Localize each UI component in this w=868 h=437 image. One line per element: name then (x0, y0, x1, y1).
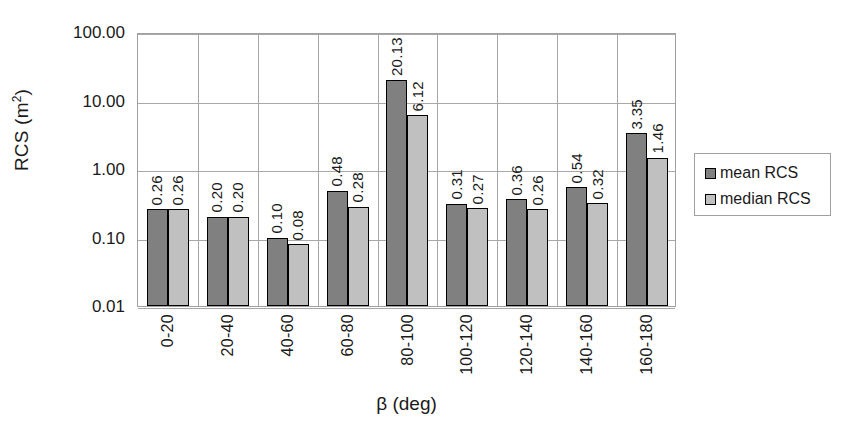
bar-mean[interactable] (626, 133, 647, 306)
bar-median[interactable] (168, 209, 189, 306)
bar-value-label: 1.46 (650, 123, 665, 153)
x-axis-tick-label: 160-180 (638, 314, 656, 375)
x-axis-tick-label: 120-140 (518, 314, 536, 375)
bar-median[interactable] (647, 158, 668, 306)
plot-area: 0.260.260.200.200.100.080.480.2820.136.1… (137, 33, 676, 307)
bar-median[interactable] (587, 203, 608, 306)
bar-group: 0.200.20 (198, 34, 258, 306)
bar-median[interactable] (467, 208, 488, 306)
bar-value-label: 3.35 (629, 99, 644, 129)
bar-group: 0.310.27 (437, 34, 497, 306)
x-axis-tick-label: 100-120 (458, 314, 476, 375)
x-axis-title: β (deg) (137, 393, 676, 415)
bar-group: 0.360.26 (497, 34, 557, 306)
x-axis-tick-label: 80-100 (399, 314, 417, 366)
legend-swatch-icon (705, 194, 716, 205)
bar-value-label: 0.31 (449, 169, 464, 199)
bar-value-label: 0.20 (209, 182, 224, 212)
bar-mean[interactable] (267, 238, 288, 307)
y-axis-tick-labels: 100.0010.001.000.100.01 (0, 33, 131, 307)
y-axis-tick-label: 0.10 (92, 229, 125, 249)
bar-mean[interactable] (147, 209, 168, 306)
y-axis-tick-label: 100.00 (73, 23, 125, 43)
bar-value-label: 20.13 (389, 37, 404, 76)
bar-value-label: 0.26 (170, 175, 185, 205)
bar-group: 3.351.46 (617, 34, 677, 306)
x-axis-tick-label: 40-60 (279, 314, 297, 356)
bar-group: 0.100.08 (258, 34, 318, 306)
y-axis-tick-label: 10.00 (82, 92, 125, 112)
bar-value-label: 0.36 (509, 165, 524, 195)
bar-value-label: 0.28 (350, 172, 365, 202)
bar-group: 0.540.32 (557, 34, 617, 306)
bar-mean[interactable] (506, 199, 527, 306)
bar-value-label: 0.54 (569, 153, 584, 183)
bar-value-label: 0.08 (290, 210, 305, 240)
legend-item-label: mean RCS (720, 165, 798, 181)
legend-item[interactable]: mean RCS (705, 161, 830, 185)
legend-swatch-icon (705, 168, 716, 179)
bar-median[interactable] (527, 209, 548, 306)
rcs-bar-chart: RCS (m2) 100.0010.001.000.100.01 0.260.2… (0, 0, 868, 437)
y-axis-tick-label: 0.01 (92, 297, 125, 317)
bar-group: 0.260.26 (138, 34, 198, 306)
bar-median[interactable] (288, 244, 309, 306)
bar-group: 20.136.12 (378, 34, 438, 306)
bar-value-label: 0.26 (149, 175, 164, 205)
y-axis-tick-label: 1.00 (92, 160, 125, 180)
bar-value-label: 6.12 (410, 81, 425, 111)
bar-mean[interactable] (566, 187, 587, 306)
x-axis-tick-label: 140-160 (578, 314, 596, 375)
legend-item[interactable]: median RCS (705, 187, 830, 211)
legend-item-label: median RCS (720, 191, 811, 207)
bar-value-label: 0.48 (329, 156, 344, 186)
bar-mean[interactable] (446, 204, 467, 306)
bar-value-label: 0.10 (269, 203, 284, 233)
bar-median[interactable] (407, 115, 428, 306)
bar-value-label: 0.32 (590, 169, 605, 199)
bar-median[interactable] (228, 217, 249, 306)
bar-mean[interactable] (386, 80, 407, 306)
x-axis-tick-label: 60-80 (339, 314, 357, 356)
bar-value-label: 0.26 (530, 175, 545, 205)
bar-value-label: 0.20 (230, 182, 245, 212)
x-axis-tick-labels: 0-2020-4040-6060-8080-100100-120120-1401… (137, 310, 676, 390)
bar-group: 0.480.28 (318, 34, 378, 306)
x-axis-tick-label: 0-20 (159, 314, 177, 347)
bar-median[interactable] (348, 207, 369, 306)
bar-mean[interactable] (327, 191, 348, 306)
bar-mean[interactable] (207, 217, 228, 306)
bar-value-label: 0.27 (470, 174, 485, 204)
gridline-horizontal (138, 308, 675, 309)
x-axis-tick-label: 20-40 (219, 314, 237, 356)
chart-legend: mean RCSmedian RCS (694, 153, 831, 216)
